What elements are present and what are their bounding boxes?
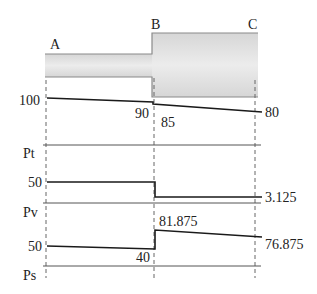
- pv-value-label: 3.125: [265, 190, 297, 205]
- axis-label-ps: Ps: [23, 268, 36, 283]
- section-guide-lines: [46, 78, 255, 278]
- point-label-a: A: [50, 37, 61, 52]
- ps-value-label: 76.875: [265, 237, 304, 252]
- pt-value-label: 90: [135, 106, 149, 121]
- diagram-svg: ABCPtPvPs100908580503.125504081.87576.87…: [0, 0, 317, 294]
- pipe-narrow-section: [45, 54, 152, 77]
- pt-value-label: 85: [161, 115, 175, 130]
- pipe-wide-section: [152, 33, 258, 97]
- ps-value-label: 40: [136, 250, 150, 265]
- pipe-shape: [45, 33, 258, 97]
- ps-curve: [47, 230, 262, 249]
- pt-value-label: 100: [19, 93, 40, 108]
- pt-value-label: 80: [265, 105, 279, 120]
- pv-value-label: 50: [28, 175, 42, 190]
- ps-value-label: 81.875: [159, 214, 198, 229]
- axis-label-pt: Pt: [23, 146, 35, 161]
- point-label-c: C: [248, 17, 257, 32]
- axis-label-pv: Pv: [23, 205, 38, 220]
- pv-curve: [47, 182, 262, 197]
- point-label-b: B: [151, 17, 160, 32]
- pressure-diagram: ABCPtPvPs100908580503.125504081.87576.87…: [0, 0, 317, 294]
- ps-value-label: 50: [28, 239, 42, 254]
- panel-baselines: [43, 145, 261, 266]
